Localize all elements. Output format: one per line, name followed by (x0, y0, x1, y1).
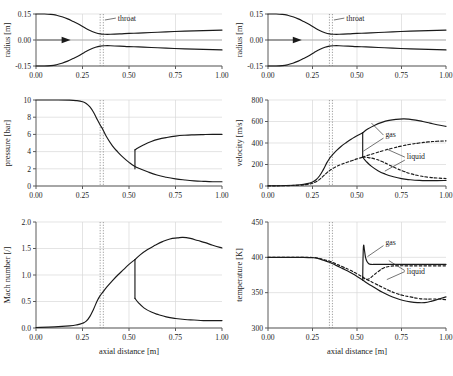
y-tick-label: 600 (252, 117, 264, 126)
y-tick-label: 4 (27, 147, 31, 156)
data-curve (363, 266, 446, 280)
annotation-label: gas (385, 238, 395, 247)
y-axis-label: radius [m] (235, 22, 244, 57)
y-tick-label: -0.15 (247, 62, 263, 71)
flow-arrow-head (62, 37, 71, 43)
panel-velocity: 02004006008000.000.250.500.751.00velocit… (235, 96, 453, 200)
y-tick-label: 400 (252, 139, 264, 148)
y-tick-label: 0.00 (18, 36, 31, 45)
y-tick-label: 0.5 (22, 297, 32, 306)
x-axis-label: axial distance [m] (99, 347, 159, 356)
y-tick-label: 0.00 (250, 36, 263, 45)
panel-radius-right: -0.150.000.150.000.250.500.751.00radius … (235, 10, 453, 80)
panel-pressure: 02468100.000.250.500.751.00pressure [bar… (3, 96, 229, 200)
y-tick-label: 450 (252, 218, 264, 227)
x-tick-label: 0.25 (76, 333, 89, 342)
x-tick-label: 0.50 (122, 333, 135, 342)
x-tick-label: 1.00 (439, 71, 452, 80)
data-curve (363, 245, 446, 280)
y-axis-label: velocity [m/s] (235, 119, 244, 166)
panel-mach: 0.00.51.01.52.00.000.250.500.751.00Mach … (3, 218, 229, 356)
x-tick-label: 0.50 (350, 333, 363, 342)
panel-temperature: 3003504004500.000.250.500.751.00temperat… (235, 218, 453, 356)
x-tick-label: 0.25 (76, 71, 89, 80)
x-tick-label: 0.50 (122, 71, 135, 80)
throat-leader-line (105, 18, 116, 20)
throat-leader-line (334, 18, 344, 20)
x-tick-label: 1.00 (215, 333, 228, 342)
x-tick-label: 0.00 (261, 191, 274, 200)
liquid-leader-line (387, 149, 405, 157)
x-tick-label: 0.00 (261, 333, 274, 342)
y-tick-label: 350 (252, 288, 264, 297)
figure-canvas: -0.150.000.150.000.250.500.751.00radius … (0, 0, 453, 376)
x-tick-label: 0.75 (169, 333, 182, 342)
data-curve (268, 257, 363, 277)
data-curve (36, 260, 135, 328)
y-tick-label: 8 (27, 113, 31, 122)
nozzle-flow-figure: -0.150.000.150.000.250.500.751.00radius … (0, 0, 453, 376)
y-tick-label: 10 (23, 96, 31, 105)
liquid-leader-line-2 (387, 272, 405, 280)
x-tick-label: 0.25 (306, 333, 319, 342)
gas-leader-line-2 (363, 138, 383, 151)
y-tick-label: 800 (252, 96, 264, 105)
y-tick-label: 200 (252, 160, 264, 169)
y-tick-label: -0.15 (15, 62, 31, 71)
y-axis-label: pressure [bar] (3, 120, 12, 166)
annotation-label: throat (346, 14, 365, 23)
y-tick-label: 1.5 (22, 244, 32, 253)
y-axis-label: Mach number [/] (3, 246, 12, 303)
data-curve (268, 257, 363, 280)
y-tick-label: 1.0 (22, 271, 32, 280)
y-tick-label: 0.15 (250, 10, 263, 19)
data-curve (363, 119, 446, 133)
x-tick-label: 0.75 (395, 191, 408, 200)
y-tick-label: 0.0 (22, 324, 32, 333)
y-tick-label: 0 (259, 182, 263, 191)
y-axis-label: temperature [K] (235, 248, 244, 302)
data-curve (268, 157, 363, 186)
panel-radius-left: -0.150.000.150.000.250.500.751.00radius … (3, 10, 229, 80)
x-tick-label: 1.00 (439, 333, 452, 342)
x-axis-label: axial distance [m] (327, 347, 387, 356)
x-tick-label: 0.75 (395, 333, 408, 342)
x-tick-label: 0.25 (306, 191, 319, 200)
y-tick-label: 2.0 (22, 218, 32, 227)
x-tick-label: 0.75 (169, 191, 182, 200)
x-tick-label: 0.25 (76, 191, 89, 200)
x-tick-label: 0.25 (306, 71, 319, 80)
annotation-label: throat (118, 14, 137, 23)
y-tick-label: 0 (27, 182, 31, 191)
x-tick-label: 0.50 (350, 191, 363, 200)
x-tick-label: 1.00 (439, 191, 452, 200)
y-tick-label: 6 (27, 130, 31, 139)
x-tick-label: 0.00 (261, 71, 274, 80)
x-tick-label: 0.75 (169, 71, 182, 80)
gas-leader-line (371, 123, 383, 135)
annotation-label: gas (385, 130, 395, 139)
annotation-label: liquid (407, 152, 425, 161)
flow-arrow-head (293, 37, 302, 43)
y-tick-label: 2 (27, 165, 31, 174)
y-tick-label: 0.15 (18, 10, 31, 19)
x-tick-label: 1.00 (215, 71, 228, 80)
x-tick-label: 1.00 (215, 191, 228, 200)
x-tick-label: 0.50 (350, 71, 363, 80)
y-axis-label: radius [m] (3, 22, 12, 57)
data-curve (135, 134, 222, 149)
data-curve (268, 133, 363, 186)
x-tick-label: 0.75 (395, 71, 408, 80)
y-tick-label: 300 (252, 324, 264, 333)
x-tick-label: 0.00 (29, 333, 42, 342)
annotation-label: liquid (407, 267, 425, 276)
x-tick-label: 0.00 (29, 191, 42, 200)
x-tick-label: 0.00 (29, 71, 42, 80)
y-tick-label: 400 (252, 253, 264, 262)
gas-leader-line (367, 246, 383, 257)
x-tick-label: 0.50 (122, 191, 135, 200)
